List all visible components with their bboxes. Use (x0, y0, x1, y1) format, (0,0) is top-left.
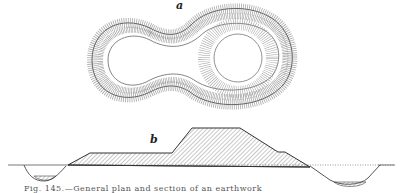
section-label: b (150, 133, 158, 146)
section-view (8, 128, 395, 187)
earthwork-figure (0, 0, 401, 193)
figure-caption: Fig. 145.—General plan and section of an… (24, 184, 262, 193)
plan-view (92, 8, 292, 104)
plan-label: a (176, 0, 183, 12)
